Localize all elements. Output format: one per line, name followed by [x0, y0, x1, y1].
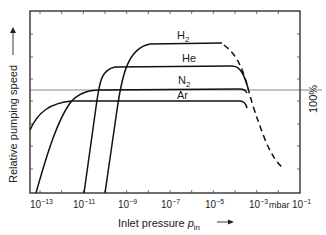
curve-h2-dashed	[224, 45, 282, 167]
x-tick-label: 10−7	[161, 198, 180, 210]
y-axis-arrow-icon	[10, 27, 16, 33]
pumping-speed-chart: H2 He N2 Ar 100% Relative pumping speed …	[0, 0, 326, 235]
x-unit-label: mbar	[269, 200, 290, 210]
curves	[30, 43, 248, 193]
curve-he	[84, 66, 248, 193]
label-100-percent: 100%	[307, 85, 319, 113]
label-n2: N2	[178, 74, 191, 89]
y-axis-label: Relative pumping speed	[7, 65, 19, 183]
y-axis-label-group: Relative pumping speed	[7, 27, 19, 183]
x-tick-labels: 10−13 10−11 10−9 10−7 10−5 10−3 mbar 10−…	[30, 198, 311, 210]
x-tick-label: 10−5	[205, 198, 224, 210]
curve-n2	[36, 89, 247, 193]
x-axis-arrow-icon	[228, 220, 234, 225]
label-h2: H2	[177, 29, 190, 44]
label-ar: Ar	[177, 89, 188, 101]
x-tick-label: 10−1	[292, 198, 311, 210]
x-tick-label: 10−3	[249, 198, 268, 210]
x-tick-label: 10−11	[73, 198, 96, 210]
x-tick-label: 10−13	[30, 198, 53, 210]
label-he: He	[182, 52, 196, 64]
x-axis-label: Inlet pressure pin	[118, 217, 200, 232]
x-tick-label: 10−9	[118, 198, 137, 210]
